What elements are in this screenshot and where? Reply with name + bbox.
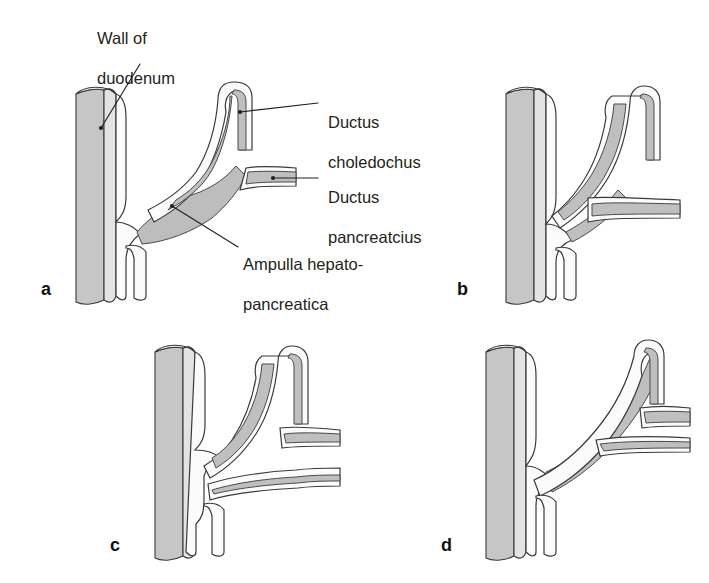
panel-b-duodenal-wall-face — [506, 89, 534, 304]
panel-b-duodenal-wall-edge — [534, 89, 546, 302]
figure-root: Wall of duodenum Ductus choledochus Duct… — [0, 0, 709, 583]
panel-b-graphic — [506, 86, 680, 304]
panel-a-ductus-choledochus-lumen-band — [232, 90, 246, 150]
callout-wall-of-duodenum-line1: Wall of — [97, 28, 175, 48]
panel-d-ductus-pancreatcius-lumen — [644, 411, 690, 423]
panel-c-graphic — [155, 345, 340, 560]
panel-b-papilla-tip — [556, 247, 576, 300]
callout-wall-of-duodenum: Wall of duodenum — [97, 8, 175, 108]
panel-letter-d: d — [441, 535, 452, 556]
callout-ductus-pancreatcius-line1: Ductus — [328, 187, 422, 207]
panel-d-duodenal-wall-edge — [514, 347, 526, 558]
callout-ampulla-hepatopancreatica-line1: Ampulla hepato- — [243, 254, 363, 274]
panel-b-ductus-pancreatcius-lumen — [592, 203, 680, 216]
panel-a-papilla-tip — [126, 245, 146, 300]
panel-letter-c: c — [110, 535, 120, 556]
panel-c-papilla-tip — [204, 503, 224, 556]
panel-c-ductus-choledochus-lumen-band — [288, 354, 302, 424]
panel-letter-b: b — [457, 279, 468, 300]
panel-d-graphic — [486, 340, 690, 560]
panel-a-leader-dot-pancreatcius — [271, 176, 275, 180]
panel-a-leader-dot-choledochus — [238, 110, 242, 114]
panel-a-leader-dot-wall — [99, 126, 103, 130]
panel-c-duodenal-wall-face — [155, 347, 183, 560]
callout-wall-of-duodenum-line2: duodenum — [97, 68, 175, 88]
panel-a-leader-dot-ampulla — [170, 204, 174, 208]
panel-letter-a: a — [41, 279, 51, 300]
panel-c-duct-upper-branch-lumen — [284, 433, 340, 443]
panel-b-ductus-choledochus-lumen-band — [640, 94, 654, 160]
panel-d-duodenal-wall-face — [486, 347, 514, 560]
panel-a-duodenal-wall-face — [76, 89, 104, 304]
callout-ductus-choledochus-line1: Ductus — [328, 112, 421, 132]
callout-ampulla-hepatopancreatica: Ampulla hepato- pancreatica — [243, 234, 363, 334]
panel-d-papilla-tip — [536, 495, 556, 556]
callout-ampulla-hepatopancreatica-line2: pancreatica — [243, 294, 363, 314]
